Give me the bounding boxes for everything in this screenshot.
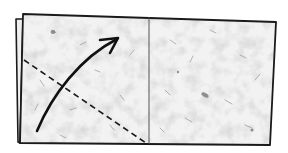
diagram-canvas (0, 0, 288, 153)
origami-diagram (0, 0, 288, 153)
paper-texture (0, 0, 288, 153)
